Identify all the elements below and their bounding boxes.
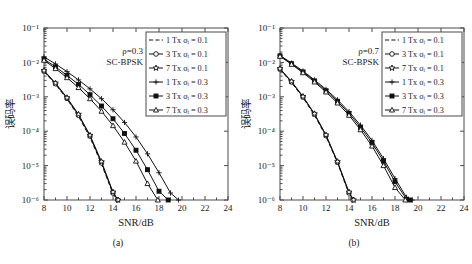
marker-triangle [393, 185, 398, 190]
y-tick-label: 10⁻⁴ [22, 126, 39, 136]
series-1 [44, 72, 116, 200]
x-tick-label: 14 [109, 203, 119, 213]
marker-square [154, 94, 158, 98]
x-tick-label: 16 [368, 203, 378, 213]
legend: 1 Tx σᵢ = 0.13 Tx σᵢ = 0.17 Tx σᵢ = 0.11… [382, 32, 462, 116]
marker-star [335, 159, 341, 164]
legend-label: 7 Tx σᵢ = 0.3 [166, 106, 208, 115]
x-tick-label: 8 [278, 203, 283, 213]
y-tick-label: 10⁻³ [258, 92, 275, 102]
panel-subcaption: (b) [348, 238, 359, 249]
x-tick-label: 18 [391, 203, 401, 213]
marker-square [134, 148, 138, 152]
legend-label: 3 Tx σᵢ = 0.1 [402, 50, 444, 59]
marker-square [157, 189, 161, 193]
y-tick-label: 10⁻⁴ [258, 126, 275, 136]
legend-label: 1 Tx σᵢ = 0.3 [166, 78, 208, 87]
legend: 1 Tx σᵢ = 0.13 Tx σᵢ = 0.17 Tx σᵢ = 0.11… [146, 32, 226, 116]
legend-label: 7 Tx σᵢ = 0.1 [402, 64, 444, 73]
legend-label: 1 Tx σᵢ = 0.1 [402, 36, 444, 45]
marker-square [100, 104, 104, 108]
y-tick-label: 10⁻² [258, 58, 275, 68]
x-tick-label: 10 [63, 203, 73, 213]
marker-square [390, 94, 394, 98]
y-tick-label: 10⁻⁵ [22, 161, 39, 171]
y-tick-label: 10⁻⁵ [258, 161, 275, 171]
series-1 [280, 70, 352, 200]
y-tick-label: 10⁻² [22, 58, 39, 68]
y-axis-title: 误码率 [4, 99, 16, 129]
marker-circle [390, 52, 395, 57]
series-6 [42, 58, 161, 202]
series-3 [41, 68, 121, 203]
marker-star [346, 189, 352, 194]
x-axis-title: SNR/dB [118, 217, 154, 228]
marker-square [111, 117, 115, 121]
x-tick-label: 12 [86, 203, 95, 213]
legend-label: 1 Tx σᵢ = 0.3 [402, 78, 444, 87]
x-tick-label: 14 [345, 203, 355, 213]
annotation-rho: ρ=0.3 [122, 46, 143, 56]
marker-circle [154, 52, 159, 57]
marker-square [123, 131, 127, 135]
marker-star [277, 66, 283, 71]
annotation-rho: ρ=0.7 [358, 46, 379, 56]
x-tick-label: 20 [414, 203, 424, 213]
y-tick-label: 10⁻¹ [22, 23, 39, 33]
x-tick-label: 10 [299, 203, 309, 213]
marker-star [41, 68, 47, 73]
x-tick-label: 22 [201, 203, 210, 213]
y-tick-label: 10⁻⁶ [22, 195, 39, 205]
x-tick-label: 8 [42, 203, 47, 213]
legend-label: 3 Tx σᵢ = 0.3 [402, 92, 444, 101]
series-line [44, 60, 158, 200]
legend-label: 7 Tx σᵢ = 0.1 [166, 64, 208, 73]
marker-square [408, 198, 412, 202]
legend-label: 1 Tx σᵢ = 0.1 [166, 36, 208, 45]
marker-square [146, 168, 150, 172]
panel-subcaption: (a) [113, 238, 124, 249]
x-tick-label: 24 [460, 203, 470, 213]
x-tick-label: 12 [322, 203, 331, 213]
annotation-modulation: SC-BPSK [106, 57, 143, 67]
x-tick-label: 16 [132, 203, 142, 213]
y-tick-label: 10⁻¹ [258, 23, 275, 33]
marker-square [393, 180, 397, 184]
y-tick-label: 10⁻⁶ [258, 195, 275, 205]
y-axis-title: 误码率 [240, 99, 252, 129]
figure-root: 8101214161820222410⁻¹10⁻²10⁻³10⁻⁴10⁻⁵10⁻… [0, 0, 472, 264]
chart-panel-a: 8101214161820222410⁻¹10⁻²10⁻³10⁻⁴10⁻⁵10⁻… [0, 0, 236, 264]
x-tick-label: 24 [224, 203, 234, 213]
legend-label: 3 Tx σᵢ = 0.3 [166, 92, 208, 101]
series-line [44, 72, 116, 200]
plot-svg-b: 8101214161820222410⁻¹10⁻²10⁻³10⁻⁴10⁻⁵10⁻… [236, 0, 472, 264]
series-line [280, 69, 354, 200]
y-tick-label: 10⁻³ [22, 92, 39, 102]
x-axis-title: SNR/dB [354, 217, 390, 228]
marker-square [166, 198, 170, 202]
legend-label: 7 Tx σᵢ = 0.3 [402, 106, 444, 115]
series-line [280, 69, 353, 200]
marker-triangle [134, 159, 139, 164]
chart-panel-b: 8101214161820222410⁻¹10⁻²10⁻³10⁻⁴10⁻⁵10⁻… [236, 0, 472, 264]
plot-svg-a: 8101214161820222410⁻¹10⁻²10⁻³10⁻⁴10⁻⁵10⁻… [0, 0, 236, 264]
legend-label: 3 Tx σᵢ = 0.1 [166, 50, 208, 59]
series-2 [278, 67, 356, 203]
marker-triangle [145, 181, 150, 186]
x-tick-label: 18 [155, 203, 165, 213]
x-tick-label: 20 [178, 203, 188, 213]
annotation-modulation: SC-BPSK [342, 57, 379, 67]
x-tick-label: 22 [437, 203, 446, 213]
series-line [280, 70, 352, 200]
